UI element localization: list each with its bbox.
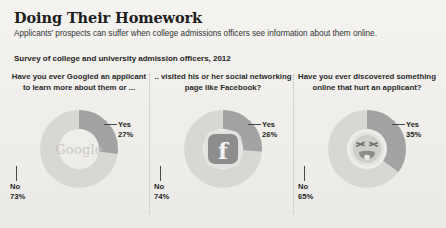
yes-leader-line <box>104 124 117 125</box>
yes-label: Yes 35% <box>406 120 421 139</box>
no-label: No 65% <box>298 182 313 201</box>
donut-chart <box>40 110 118 188</box>
chart-area: Yes 35% No 65% <box>296 108 438 212</box>
no-percent: 74% <box>154 192 169 202</box>
chart-area: Google Yes 27% No 73% <box>8 108 150 212</box>
no-percent: 65% <box>298 192 313 202</box>
no-text: No <box>10 182 20 191</box>
chart-area: f Yes 26% No 74% <box>152 108 294 212</box>
yes-label: Yes 26% <box>262 120 277 139</box>
question-text: Have you ever discovered something onlin… <box>296 72 438 93</box>
no-label: No 73% <box>10 182 25 201</box>
no-leader-line <box>160 166 161 181</box>
donut-panels: Have you ever Googled an applicant to le… <box>0 72 446 212</box>
no-label: No 74% <box>154 182 169 201</box>
yes-text: Yes <box>118 120 131 129</box>
question-text: Have you ever Googled an applicant to le… <box>8 72 150 93</box>
page-title: Doing Their Homework <box>14 9 202 26</box>
no-text: No <box>298 182 308 191</box>
donut-panel-facebook: .. visited his or her social networking … <box>152 72 294 212</box>
yes-leader-line <box>248 124 261 125</box>
donut-chart <box>184 110 262 188</box>
question-text: .. visited his or her social networking … <box>152 72 294 93</box>
yes-text: Yes <box>262 120 275 129</box>
donut-chart <box>328 110 406 188</box>
yes-percent: 26% <box>262 130 277 140</box>
no-percent: 73% <box>10 192 25 202</box>
yes-label: Yes 27% <box>118 120 133 139</box>
survey-note: Survey of college and university admissi… <box>14 54 231 63</box>
donut-panel-harm: Have you ever discovered something onlin… <box>296 72 438 212</box>
no-leader-line <box>16 166 17 181</box>
page-subtitle: Applicants' prospects can suffer when co… <box>14 29 377 38</box>
no-text: No <box>154 182 164 191</box>
infographic-root: Doing Their Homework Applicants' prospec… <box>0 0 446 228</box>
yes-text: Yes <box>406 120 419 129</box>
yes-percent: 27% <box>118 130 133 140</box>
yes-percent: 35% <box>406 130 421 140</box>
no-leader-line <box>304 166 305 181</box>
donut-panel-google: Have you ever Googled an applicant to le… <box>8 72 150 212</box>
yes-leader-line <box>392 124 405 125</box>
